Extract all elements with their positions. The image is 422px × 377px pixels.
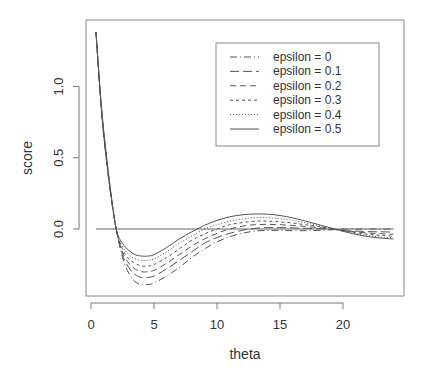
legend-label: epsilon = 0.3 — [273, 93, 342, 107]
x-tick-label: 5 — [150, 317, 157, 332]
y-axis: 0.00.51.0 — [51, 77, 79, 238]
x-tick-label: 10 — [210, 317, 224, 332]
y-tick-label: 0.0 — [51, 220, 66, 238]
legend-label: epsilon = 0.2 — [273, 79, 342, 93]
x-axis: 05101520 — [87, 303, 350, 332]
x-tick-label: 20 — [336, 317, 350, 332]
y-tick-label: 0.5 — [51, 149, 66, 167]
y-axis-title: score — [19, 141, 35, 175]
legend-label: epsilon = 0 — [273, 50, 332, 64]
legend-label: epsilon = 0.1 — [273, 64, 342, 78]
legend: epsilon = 0epsilon = 0.1epsilon = 0.2eps… — [216, 43, 379, 146]
x-axis-title: theta — [229, 346, 260, 362]
legend-label: epsilon = 0.4 — [273, 108, 342, 122]
score-vs-theta-chart: 05101520 0.00.51.0 theta score epsilon =… — [0, 0, 422, 377]
x-tick-label: 15 — [273, 317, 287, 332]
legend-label: epsilon = 0.5 — [273, 122, 342, 136]
y-tick-label: 1.0 — [51, 77, 66, 95]
x-tick-label: 0 — [87, 317, 94, 332]
